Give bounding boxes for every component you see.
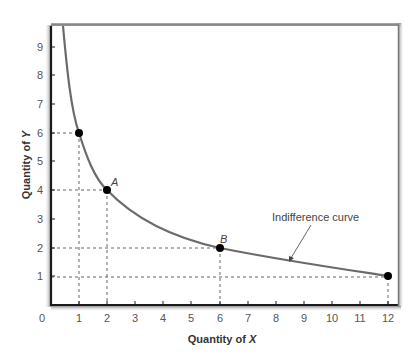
point-12-1 [384,272,392,280]
svg-text:7: 7 [37,98,43,110]
svg-text:8: 8 [273,312,279,324]
point-b [216,244,224,252]
svg-text:4: 4 [160,312,166,324]
svg-text:6: 6 [217,312,223,324]
svg-text:5: 5 [188,312,194,324]
y-tick-labels: 1 2 3 4 5 6 7 8 9 [37,41,43,282]
indifference-curve-chart: 1 2 3 4 5 6 7 8 9 0 1 2 3 4 5 6 7 8 9 10… [0,0,420,359]
indifference-curve-annotation: Indifference curve [272,211,359,223]
svg-text:12: 12 [382,312,394,324]
svg-text:2: 2 [104,312,110,324]
svg-text:10: 10 [326,312,338,324]
svg-text:3: 3 [37,213,43,225]
svg-text:4: 4 [37,184,43,196]
svg-text:0: 0 [39,312,45,324]
x-tick-labels: 0 1 2 3 4 5 6 7 8 9 10 11 12 [39,312,394,324]
svg-text:8: 8 [37,69,43,81]
point-b-label: B [220,233,227,245]
svg-text:2: 2 [37,242,43,254]
x-axis-title: Quantity of X [188,333,257,345]
svg-text:11: 11 [354,312,365,324]
y-axis-title: Quantity of Y [20,129,32,199]
svg-text:9: 9 [301,312,307,324]
svg-text:9: 9 [37,41,43,53]
point-a-label: A [110,176,118,188]
plot-area [51,26,398,305]
svg-text:3: 3 [132,312,138,324]
point-a [103,186,111,194]
svg-text:1: 1 [76,312,82,324]
svg-text:5: 5 [37,155,43,167]
svg-text:1: 1 [37,270,43,282]
svg-text:6: 6 [37,127,43,139]
svg-text:7: 7 [245,312,251,324]
point-1-6 [75,129,83,137]
